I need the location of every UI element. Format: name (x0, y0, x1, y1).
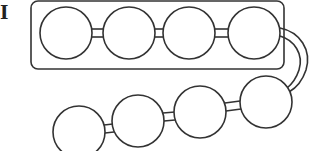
top-bead-3 (163, 7, 215, 59)
bottom-bead-1 (53, 106, 105, 151)
top-bead-2 (103, 7, 155, 59)
bottom-bead-4 (240, 76, 292, 128)
bead-chain-diagram: I (0, 0, 316, 151)
top-bead-1 (40, 7, 92, 59)
diagram-canvas (0, 0, 316, 151)
bottom-bead-2 (112, 95, 164, 147)
bottom-bead-3 (174, 86, 226, 138)
top-bead-4 (228, 7, 280, 59)
